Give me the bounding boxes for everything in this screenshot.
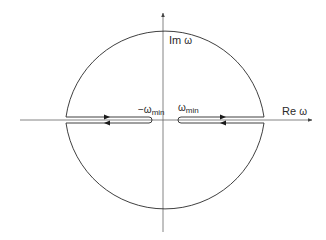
min-subscript: min xyxy=(152,108,165,117)
neg-omega-text: −ω xyxy=(138,104,152,115)
pos-omega-min-label: ωmin xyxy=(178,103,199,115)
real-axis-label: Re ω xyxy=(282,106,307,117)
re-text: Re xyxy=(282,105,296,117)
omega-symbol: ω xyxy=(299,106,307,117)
arrow-right-icon xyxy=(220,115,226,120)
arrow-left-icon xyxy=(104,121,110,126)
arrow-right-icon xyxy=(104,115,110,120)
im-text: Im xyxy=(169,34,181,46)
omega-text: ω xyxy=(178,102,186,113)
imaginary-axis-label: Im ω xyxy=(169,35,192,46)
arrow-left-icon xyxy=(220,121,226,126)
omega-symbol: ω xyxy=(184,35,192,46)
min-subscript: min xyxy=(186,106,199,115)
upper-arc xyxy=(66,31,264,117)
neg-omega-min-label: −ωmin xyxy=(138,105,165,117)
contour-diagram xyxy=(0,0,326,240)
lower-arc xyxy=(66,123,264,209)
